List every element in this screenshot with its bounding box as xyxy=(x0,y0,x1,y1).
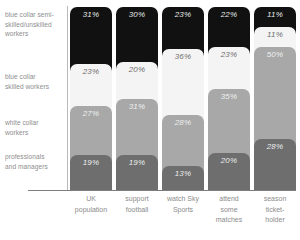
x-axis-label-line: season xyxy=(251,194,299,205)
bar-column[interactable]: 23%36%28%13% xyxy=(162,7,204,190)
bar-segment-value: 22% xyxy=(221,10,238,19)
bar-segment-value: 20% xyxy=(129,65,146,74)
series-label-line: skilled/unskilled xyxy=(5,20,66,30)
x-axis-label-line: attend xyxy=(205,194,253,205)
x-axis-label-line: football xyxy=(113,205,161,216)
bar-segment-value: 35% xyxy=(221,92,238,101)
series-label-blue-collar-semi-skilled: blue collar semi-skilled/unskilledworker… xyxy=(5,10,66,39)
x-axis-label-line: population xyxy=(67,205,115,216)
bar-segment-value: 19% xyxy=(83,158,100,167)
series-label-professionals-managers: professionalsand managers xyxy=(5,152,66,171)
bar-segment-value: 23% xyxy=(175,10,192,19)
x-axis-label-row: UKpopulationsupportfootballwatch SkySpor… xyxy=(70,194,296,240)
horizontal-axis-line xyxy=(28,190,296,191)
x-axis-label-line: some xyxy=(205,205,253,216)
series-label-line: professionals xyxy=(5,152,66,162)
bar-segment-value: 19% xyxy=(129,158,146,167)
x-axis-label-line: watch Sky xyxy=(159,194,207,205)
bar-segment-value: 30% xyxy=(129,10,146,19)
x-axis-label: seasonticket-holder xyxy=(251,194,299,226)
series-label-line: workers xyxy=(5,29,66,39)
x-axis-label-line: Sports xyxy=(159,205,207,216)
bar-segment-value: 23% xyxy=(83,67,100,76)
bar-segment-value: 36% xyxy=(175,52,192,61)
series-label-line: white collar xyxy=(5,118,66,128)
bar-segment-value: 13% xyxy=(175,169,192,178)
series-label-line: blue collar xyxy=(5,72,66,82)
bar-segment-value: 28% xyxy=(175,118,192,127)
series-label-white-collar: white collarworkers xyxy=(5,118,66,137)
series-label-line: and managers xyxy=(5,162,66,172)
bar-column[interactable]: 31%23%27%19% xyxy=(70,7,112,190)
x-axis-label: supportfootball xyxy=(113,194,161,215)
series-label-line: skilled workers xyxy=(5,82,66,92)
stacked-bar-chart: blue collar semi-skilled/unskilledworker… xyxy=(0,0,300,240)
bar-column[interactable]: 30%20%31%19% xyxy=(116,7,158,190)
bar-segment[interactable]: 20% xyxy=(208,153,250,190)
bar-segment-value: 28% xyxy=(267,142,284,151)
bar-segment-value: 11% xyxy=(267,10,283,19)
bar-column[interactable]: 22%23%35%20% xyxy=(208,7,250,190)
bar-segment[interactable]: 19% xyxy=(70,155,112,190)
series-label-line: workers xyxy=(5,128,66,138)
x-axis-label-line: ticket- xyxy=(251,205,299,216)
vertical-divider xyxy=(67,6,68,190)
bar-segment[interactable]: 19% xyxy=(116,155,158,190)
x-axis-label-line: holder xyxy=(251,215,299,226)
x-axis-label-line: matches xyxy=(205,215,253,226)
bar-column[interactable]: 11%11%50%28% xyxy=(254,7,296,190)
bar-segment-value: 11% xyxy=(267,30,283,39)
x-axis-label: UKpopulation xyxy=(67,194,115,215)
series-label-line: blue collar semi- xyxy=(5,10,66,20)
bar-segment-value: 31% xyxy=(83,10,100,19)
series-label-column: blue collar semi-skilled/unskilledworker… xyxy=(0,0,66,188)
x-axis-label-line: support xyxy=(113,194,161,205)
bar-segment-value: 20% xyxy=(221,156,238,165)
plot-area: 31%23%27%19%30%20%31%19%23%36%28%13%22%2… xyxy=(70,7,296,190)
bar-segment-value: 27% xyxy=(83,109,100,118)
bar-segment-value: 31% xyxy=(129,102,146,111)
bar-segment-value: 23% xyxy=(221,50,238,59)
bar-segment[interactable]: 28% xyxy=(254,139,296,190)
series-label-blue-collar-skilled: blue collarskilled workers xyxy=(5,72,66,91)
x-axis-label: watch SkySports xyxy=(159,194,207,215)
bar-segment[interactable]: 13% xyxy=(162,166,204,190)
x-axis-label-line: UK xyxy=(67,194,115,205)
x-axis-label: attendsomematches xyxy=(205,194,253,226)
bar-segment-value: 50% xyxy=(267,50,284,59)
